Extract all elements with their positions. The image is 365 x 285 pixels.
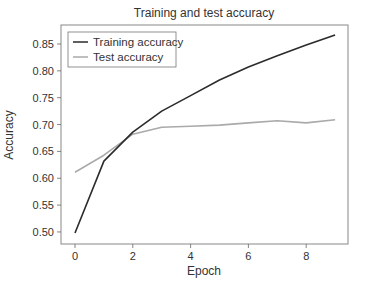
y-axis-label: Accuracy [2, 110, 16, 159]
y-tick-label: 0.75 [33, 92, 54, 104]
y-tick-label: 0.60 [33, 172, 54, 184]
x-tick-label: 4 [188, 250, 194, 262]
legend: Training accuracy Test accuracy [68, 32, 184, 67]
y-tick-label: 0.80 [33, 65, 54, 77]
x-tick-label: 8 [303, 250, 309, 262]
legend-label-test: Test accuracy [93, 51, 164, 63]
y-tick-label: 0.65 [33, 145, 54, 157]
x-tick-label: 0 [72, 250, 78, 262]
chart-title: Training and test accuracy [134, 6, 274, 20]
x-tick-label: 2 [130, 250, 136, 262]
y-tick-label: 0.85 [33, 38, 54, 50]
x-axis-ticks: 02468 [72, 244, 309, 262]
x-tick-label: 6 [245, 250, 251, 262]
x-axis-label: Epoch [187, 264, 221, 278]
legend-label-training: Training accuracy [93, 36, 184, 48]
y-tick-label: 0.50 [33, 226, 54, 238]
y-axis-ticks: 0.500.550.600.650.700.750.800.85 [33, 38, 61, 238]
y-tick-label: 0.70 [33, 119, 54, 131]
y-tick-label: 0.55 [33, 199, 54, 211]
line-chart: Training and test accuracy 0.500.550.600… [0, 0, 365, 285]
series-line [75, 120, 335, 173]
